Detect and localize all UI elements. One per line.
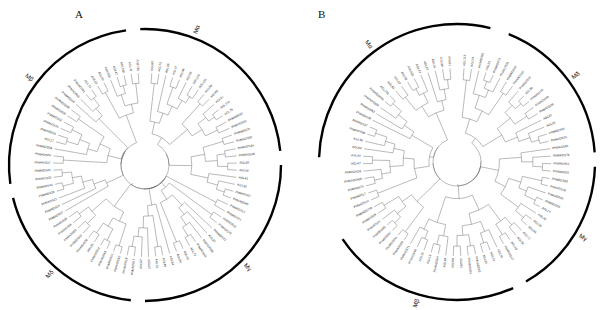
tip-label: PhMADS49 <box>239 152 256 158</box>
clade-label: Mδ <box>570 69 582 80</box>
tip-label: AGL92 <box>351 153 361 158</box>
tip-label: PhMADS56 <box>35 152 52 158</box>
tip-label: PhMADS43 <box>34 168 51 173</box>
tip-label: AGL20 <box>482 254 489 265</box>
tip-label: AGL58 <box>185 71 193 82</box>
tip-label: AGL51 <box>386 80 396 90</box>
tip-label: AGL40 <box>239 161 249 165</box>
tip-label: AGL52 <box>516 236 525 246</box>
tip-label: AGL46 <box>431 58 437 69</box>
tip-label: PhMADS62 <box>113 255 121 272</box>
tip-label: PhMADS34 <box>238 143 255 150</box>
tip-label: AGL74 <box>541 206 552 214</box>
tip-label: PhMADS07 <box>34 160 51 164</box>
tip-label: AGL61 <box>154 259 159 269</box>
phylogenetic-figure: A AGL63AGL73AGL56AGL67AGL96AGL58AGL102AG… <box>0 0 610 310</box>
panel-b: B AGL113AGL24PhMADS01AGL59PhMADS73PhMADS… <box>305 0 610 310</box>
tip-label: AGL80 <box>451 258 455 268</box>
tip-label: PhMADS39 <box>38 190 55 199</box>
tip-label: AGL96 <box>178 67 185 78</box>
tip-label: AGL47 <box>351 161 361 165</box>
tip-label: AGL56 <box>164 63 170 74</box>
tip-label: AGL73 <box>157 62 162 72</box>
tip-label: PhMADS30 <box>236 135 253 143</box>
tip-label: AGL84 <box>169 255 176 266</box>
tip-label: AGL26 <box>86 242 95 252</box>
clade-arc <box>13 198 131 300</box>
panel-a: A AGL63AGL73AGL56AGL67AGL96AGL58AGL102AG… <box>0 0 305 310</box>
tip-label: AGL72 <box>189 247 197 258</box>
tip-label: AGL31 <box>489 252 496 263</box>
tip-label: PhMADS51 <box>553 161 570 165</box>
tip-label: AGL57 <box>393 75 402 85</box>
tip-label: PhMADS64 <box>433 256 440 273</box>
tip-label: PhMADS60b <box>344 177 363 184</box>
tip-label: AGL97 <box>542 113 553 121</box>
tip-label: AGL72 <box>522 231 532 241</box>
tip-label: PhMADS48 <box>407 248 418 265</box>
clade-arc <box>509 34 595 152</box>
tip-label: PhMADS01 <box>477 52 485 69</box>
panel-b-tree: AGL113AGL24PhMADS01AGL59PhMADS73PhMADS31… <box>305 0 610 310</box>
tip-label: AGL64 <box>352 145 362 150</box>
clade-label: Mδ <box>44 268 55 280</box>
tip-label: AGL41 <box>238 175 248 180</box>
tip-label: AGL24 <box>470 57 475 67</box>
tip-label: PhMADS18 <box>122 257 129 274</box>
clade-arc <box>145 165 281 301</box>
tip-label: AGL62 <box>459 258 463 268</box>
tip-label: PhMADS04 <box>467 257 473 274</box>
tip-label: AGL30 <box>532 219 542 228</box>
tip-label: AGL58 <box>400 71 409 82</box>
tip-label: AGL50 <box>97 71 105 82</box>
tip-label: PhMADS51 <box>105 253 114 270</box>
tip-label: AGL71 <box>128 62 133 72</box>
clade-label: Mα <box>191 24 201 35</box>
tip-label: AGL17 <box>44 137 55 143</box>
tip-label: PhMADS17 <box>130 258 136 275</box>
tip-label: AGL46 <box>161 257 167 267</box>
tip-label: AGL90 <box>239 168 249 173</box>
tip-label: AGL80 <box>176 253 183 264</box>
tip-label: AGL52 <box>147 259 151 269</box>
tip-label: PhMADS19 <box>40 127 57 136</box>
tip-label: AGL16 <box>426 254 433 265</box>
tip-label: AGL67 <box>171 65 178 76</box>
tip-label: PhMADS20 <box>35 175 52 181</box>
tip-label: PhMADS58 <box>349 127 366 136</box>
tip-label: AGL79 <box>224 107 235 116</box>
tip-label: AGL92 <box>237 183 248 189</box>
tip-label: PhMADS58 <box>36 143 53 150</box>
tip-label: AGL87 <box>423 60 430 71</box>
tip-label: AGL35 <box>546 120 557 127</box>
tip-label: AGL33 <box>537 213 547 222</box>
tip-label: AGL43 <box>415 63 422 74</box>
tip-label: AGL73b <box>135 59 140 71</box>
tip-label: AGL62b <box>406 65 415 77</box>
tip-label: AGL47 <box>112 65 119 76</box>
tip-label: AGL22 <box>418 251 425 262</box>
tip-label: PhMADS38 <box>550 184 567 192</box>
clade-label: Mγ <box>243 262 254 273</box>
tip-label: AGL96 <box>439 57 444 67</box>
tip-label: AGL34 <box>496 248 504 259</box>
tip-label: AGL33 <box>90 75 99 86</box>
tip-label: PhMADS26 <box>345 169 362 175</box>
tip-label: AGL61 <box>447 56 452 66</box>
tip-label: PhMADS34 <box>547 192 564 201</box>
tip-label: PhMADS33 <box>551 135 568 143</box>
tip-label: AGL92b <box>104 66 112 78</box>
clade-label: Mβ <box>24 72 36 83</box>
tip-label: PhMADS29 <box>234 127 251 136</box>
clade-arc <box>140 29 280 151</box>
tip-label: PhMADS78 <box>553 153 570 158</box>
tip-label: PhMADS44 <box>36 183 53 190</box>
tip-label: AGL87 <box>139 259 143 269</box>
tip-label: PhMADS25 <box>552 177 569 184</box>
tip-label: PhMADS75 <box>348 184 365 192</box>
tip-label: AGL62 <box>182 250 190 261</box>
tip-label: PhMADS61 <box>552 144 569 150</box>
clade-label: Mβ <box>411 297 420 308</box>
tip-label: AGL113 <box>462 54 467 66</box>
tip-label: AGL59 <box>485 60 492 71</box>
